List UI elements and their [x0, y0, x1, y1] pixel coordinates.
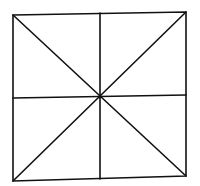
center-point [99, 96, 102, 99]
square-diagram [0, 0, 200, 186]
